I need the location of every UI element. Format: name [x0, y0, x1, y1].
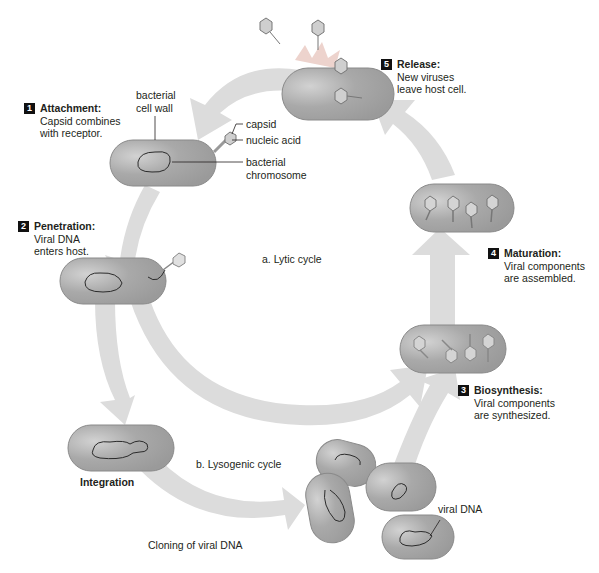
- step-number-badge: 4: [488, 248, 499, 259]
- attachment-cell: [110, 116, 243, 186]
- step-release: 5Release: New viruses leave host cell.: [381, 58, 466, 96]
- label-nucleic-acid: nucleic acid: [246, 134, 301, 147]
- step-number-badge: 5: [381, 59, 392, 70]
- cloning-label: Cloning of viral DNA: [148, 539, 243, 551]
- step-desc-line: Viral components: [458, 397, 555, 410]
- step-desc-line: New viruses: [381, 71, 466, 84]
- step-title: Maturation:: [504, 247, 561, 260]
- released-phages: [260, 18, 324, 50]
- label-capsid: capsid: [246, 118, 276, 131]
- step-desc-line: enters host.: [18, 245, 95, 258]
- label-line: bacterial: [246, 156, 307, 169]
- label-chromosome: bacterial chromosome: [246, 156, 307, 181]
- step-title: Biosynthesis:: [474, 384, 543, 397]
- step-desc-line: Viral components: [488, 260, 585, 273]
- label-cell-wall: bacterial cell wall: [136, 89, 176, 114]
- step-penetration: 2Penetration: Viral DNA enters host.: [18, 220, 95, 258]
- label-line: cell wall: [136, 102, 176, 115]
- step-title: Penetration:: [34, 220, 95, 233]
- step-desc-line: are assembled.: [488, 272, 585, 285]
- step-desc-line: are synthesized.: [458, 409, 555, 422]
- step-desc-line: with receptor.: [24, 127, 121, 140]
- lysogenic-cycle-label: b. Lysogenic cycle: [196, 458, 281, 470]
- viral-dna-label: viral DNA: [438, 503, 482, 515]
- step-attachment: 1Attachment: Capsid combines with recept…: [24, 102, 121, 140]
- label-line: bacterial: [136, 89, 176, 102]
- step-desc-line: leave host cell.: [381, 83, 466, 96]
- step-number-badge: 2: [18, 221, 29, 232]
- penetration-cell: [60, 253, 185, 304]
- step-number-badge: 3: [458, 385, 469, 396]
- release-cell: [282, 42, 394, 120]
- step-title: Attachment:: [40, 102, 101, 115]
- integration-label: Integration: [80, 476, 134, 488]
- lytic-cycle-label: a. Lytic cycle: [262, 253, 322, 265]
- step-biosynthesis: 3Biosynthesis: Viral components are synt…: [458, 384, 555, 422]
- step-desc-line: Capsid combines: [24, 115, 121, 128]
- step-number-badge: 1: [24, 103, 35, 114]
- biosynthesis-cell: [400, 325, 506, 373]
- dividing-cells: [302, 435, 454, 559]
- maturation-cell: [410, 184, 514, 232]
- step-title: Release:: [397, 58, 440, 71]
- step-desc-line: Viral DNA: [18, 233, 95, 246]
- integration-cell: [68, 425, 174, 471]
- step-maturation: 4Maturation: Viral components are assemb…: [488, 247, 585, 285]
- label-line: chromosome: [246, 169, 307, 182]
